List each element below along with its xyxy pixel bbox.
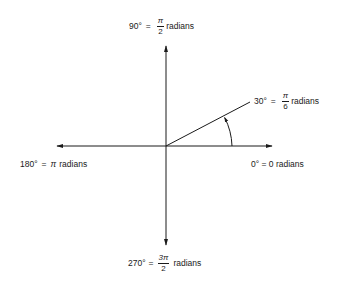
- angle-arc: [225, 118, 232, 147]
- fraction-denominator: 2: [161, 264, 165, 273]
- label-30-unit: radians: [291, 97, 319, 106]
- label-180-pi: π: [51, 160, 57, 169]
- fraction-numerator: π: [282, 92, 289, 102]
- label-30-deg: 30°: [254, 97, 267, 106]
- label-0-degrees: 0° = 0 radians: [251, 160, 304, 169]
- label-270-unit: radians: [173, 259, 201, 268]
- label-0-text: 0° = 0 radians: [251, 160, 304, 169]
- label-180-degrees: 180° = π radians: [20, 160, 87, 169]
- fraction-pi-over-2: π 2: [157, 17, 164, 36]
- label-90-unit: radians: [166, 22, 194, 31]
- fraction-3pi-over-2: 3π 2: [158, 254, 170, 273]
- label-90-degrees: 90° = π 2 radians: [129, 17, 194, 36]
- label-30-eq: =: [271, 97, 276, 106]
- thirty-degree-ray: [166, 102, 250, 146]
- label-270-degrees: 270° = 3π 2 radians: [128, 254, 201, 273]
- fraction-numerator: π: [157, 17, 164, 27]
- label-90-eq: =: [146, 22, 151, 31]
- fraction-denominator: 2: [158, 27, 162, 36]
- label-180-deg: 180°: [20, 160, 38, 169]
- label-270-deg: 270°: [128, 259, 146, 268]
- fraction-denominator: 6: [283, 102, 287, 111]
- fraction-pi-over-6: π 6: [282, 92, 289, 111]
- fraction-numerator: 3π: [158, 254, 170, 264]
- label-30-degrees: 30° = π 6 radians: [254, 92, 319, 111]
- label-270-eq: =: [149, 259, 154, 268]
- angle-diagram: [0, 0, 344, 286]
- label-180-eq: =: [42, 160, 47, 169]
- label-90-deg: 90°: [129, 22, 142, 31]
- label-180-unit: radians: [59, 160, 87, 169]
